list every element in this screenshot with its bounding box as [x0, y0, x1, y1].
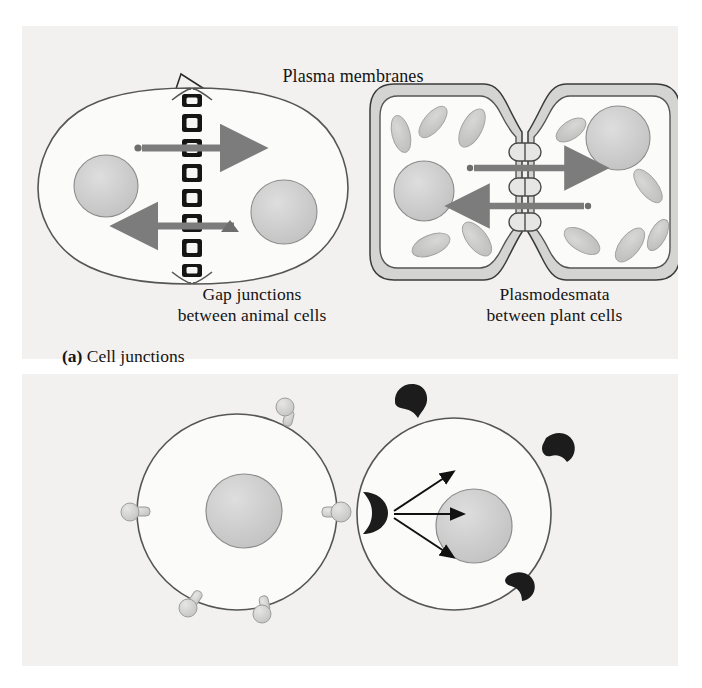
label-gap-line2: between animal cells: [178, 305, 327, 325]
plant-nucleus-right: [586, 106, 650, 170]
plant-nucleus-left: [394, 161, 454, 221]
animal-nucleus-left: [74, 155, 138, 217]
plant-molecule-dot-left: [467, 165, 473, 171]
label-plasma-membranes: Plasma membranes: [203, 66, 503, 87]
figure-root: Plasma membranes Gap junctions between a…: [0, 0, 702, 688]
plant-molecule-dot-right: [585, 203, 591, 209]
animal-cell-pair: [38, 88, 348, 284]
connexon-2: [182, 114, 202, 132]
caption-a-text: Cell junctions: [87, 346, 185, 366]
plasmodesma-1: [509, 143, 541, 161]
plasmodesma-3: [509, 213, 541, 231]
transported-molecule-dot-left: [134, 144, 141, 151]
receptor-molecule-right: [542, 433, 575, 462]
connexon-8: [182, 264, 202, 277]
label-plasmodesmata: Plasmodesmata between plant cells: [422, 284, 687, 325]
plant-transport-arrow-right: [467, 165, 572, 171]
label-gap-line1: Gap junctions: [203, 284, 302, 304]
label-gap-junctions: Gap junctions between animal cells: [117, 284, 387, 325]
connexon-1: [182, 94, 202, 107]
connexon-7: [182, 239, 202, 257]
plasmodesma-2: [509, 178, 541, 196]
caption-panel-a: (a) Cell junctions: [62, 346, 462, 368]
cell-left-nucleus: [206, 474, 282, 548]
connexon-5: [182, 189, 202, 207]
cell-left-ligand-bearing: [121, 398, 351, 623]
label-plasmodesmata-line2: between plant cells: [486, 305, 622, 325]
connexon-4: [182, 164, 202, 182]
plant-transport-arrow-left: [482, 203, 591, 209]
cell-right-nucleus: [436, 489, 512, 563]
receptor-molecule-top: [395, 384, 427, 418]
cell-right-receptor-bearing: [357, 384, 575, 610]
plant-cell-pair: [370, 84, 678, 280]
panel-b-cell-surface-interaction: (b) Interaction of cell-surface molecule…: [22, 374, 678, 666]
caption-a-marker: (a): [62, 346, 82, 366]
animal-nucleus-right: [251, 180, 317, 244]
label-plasmodesmata-line1: Plasmodesmata: [499, 284, 609, 304]
animal-transport-arrow-right: [134, 144, 228, 151]
plasmodesmata-channels: [509, 143, 541, 231]
panel-a-cell-junctions: Plasma membranes Gap junctions between a…: [22, 26, 678, 359]
panel-b-illustration: [22, 374, 678, 666]
